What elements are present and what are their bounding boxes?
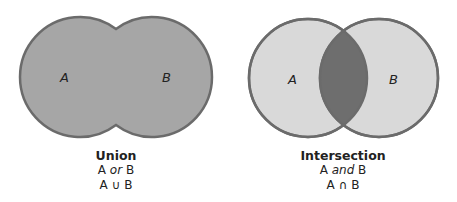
intersection-description: A and B xyxy=(263,163,423,178)
intersection-notation: A ∩ B xyxy=(263,178,423,193)
union-title: Union xyxy=(36,148,196,163)
union-diagram: A B xyxy=(20,17,212,137)
intersection-title: Intersection xyxy=(263,148,423,163)
union-set-b-label: B xyxy=(162,70,171,85)
union-caption: Union A or B A ∪ B xyxy=(36,148,196,193)
union-set-a-label: A xyxy=(59,70,69,85)
intersection-set-b-label: B xyxy=(389,72,398,87)
intersection-diagram: A B xyxy=(249,19,438,137)
union-region xyxy=(20,17,212,137)
union-description: A or B xyxy=(36,163,196,178)
intersection-set-a-label: A xyxy=(287,72,297,87)
intersection-caption: Intersection A and B A ∩ B xyxy=(263,148,423,193)
union-notation: A ∪ B xyxy=(36,178,196,193)
